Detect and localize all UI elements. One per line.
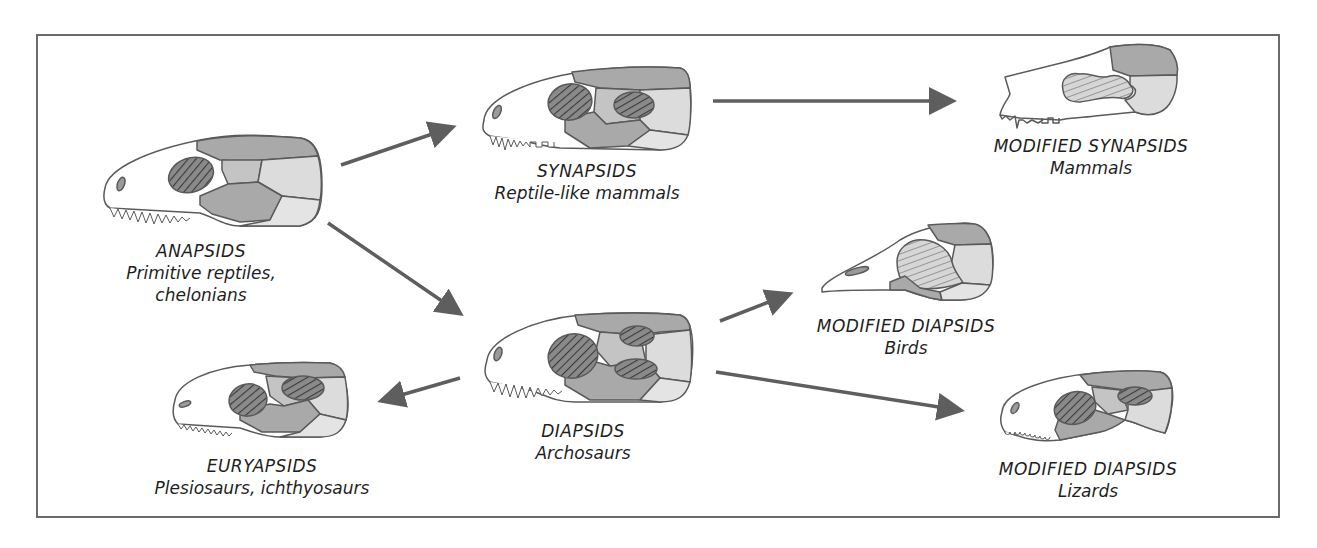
- label-diapsids: DIAPSIDS Archosaurs: [535, 420, 630, 464]
- skull-euryapsids: [173, 362, 348, 437]
- group-description: Archosaurs: [535, 442, 630, 464]
- group-description: Birds: [817, 337, 995, 359]
- label-euryapsids: EURYAPSIDS Plesiosaurs, ichthyosaurs: [155, 455, 370, 499]
- arrow-diapsids-to-lizards: [716, 372, 958, 410]
- group-description: Plesiosaurs, ichthyosaurs: [155, 477, 370, 499]
- skull-modified-diapsids-birds: [822, 223, 993, 300]
- skull-modified-synapsids-mammals: [1000, 44, 1177, 128]
- skull-diapsids: [485, 313, 693, 402]
- group-description: Lizards: [999, 480, 1177, 502]
- label-modified-diapsids-lizards: MODIFIED DIAPSIDS Lizards: [999, 458, 1177, 502]
- arrow-anapsids-to-diapsids: [328, 223, 458, 312]
- group-description-line2: chelonians: [126, 284, 276, 306]
- label-anapsids: ANAPSIDS Primitive reptiles, chelonians: [126, 240, 276, 306]
- arrow-anapsids-to-synapsids: [341, 128, 450, 165]
- skull-anapsids: [104, 135, 322, 226]
- group-name: ANAPSIDS: [126, 240, 276, 262]
- group-description: Primitive reptiles,: [126, 262, 276, 284]
- group-name: MODIFIED DIAPSIDS: [817, 315, 995, 337]
- label-modified-diapsids-birds: MODIFIED DIAPSIDS Birds: [817, 315, 995, 359]
- group-name: DIAPSIDS: [535, 420, 630, 442]
- group-name: SYNAPSIDS: [494, 160, 679, 182]
- label-modified-synapsids: MODIFIED SYNAPSIDS Mammals: [994, 135, 1189, 179]
- group-description: Mammals: [994, 157, 1189, 179]
- group-name: EURYAPSIDS: [155, 455, 370, 477]
- arrow-diapsids-to-birds: [720, 295, 787, 321]
- skull-synapsids: [483, 67, 691, 150]
- arrow-diapsids-to-euryapsids: [384, 378, 460, 400]
- group-name: MODIFIED DIAPSIDS: [999, 458, 1177, 480]
- group-name: MODIFIED SYNAPSIDS: [994, 135, 1189, 157]
- label-synapsids: SYNAPSIDS Reptile-like mammals: [494, 160, 679, 204]
- group-description: Reptile-like mammals: [494, 182, 679, 204]
- skull-modified-diapsids-lizards: [1001, 371, 1173, 441]
